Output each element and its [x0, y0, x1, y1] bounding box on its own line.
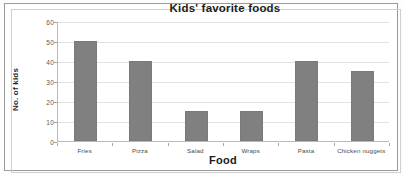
- x-axis-tick-mark: [389, 143, 390, 146]
- y-axis-tick-label: 50: [34, 39, 54, 46]
- bar-slot: [224, 22, 279, 141]
- x-axis-tick-mark: [112, 143, 113, 146]
- bar-fries: [74, 41, 97, 141]
- bar-slot: [58, 22, 113, 141]
- x-axis-tick-mark: [223, 143, 224, 146]
- x-axis-tick-mark: [57, 143, 58, 146]
- y-axis-title: No. of kids: [9, 52, 23, 126]
- plot-area: [57, 22, 389, 142]
- bar-pizza: [129, 61, 152, 141]
- x-axis-tick-mark: [334, 143, 335, 146]
- y-axis-tick-label: 40: [34, 59, 54, 66]
- bar-salad: [185, 111, 208, 141]
- x-axis-tick-mark: [278, 143, 279, 146]
- y-axis-tick-label: 20: [34, 99, 54, 106]
- chart-title: Kids' favorite foods: [60, 2, 390, 14]
- y-axis-tick-label: 30: [34, 79, 54, 86]
- x-axis-tick-mark: [168, 143, 169, 146]
- y-axis-tick-labels: 0102030405060: [30, 22, 54, 142]
- bar-slot: [113, 22, 168, 141]
- bar-chicken-nuggets: [351, 71, 374, 141]
- bar-slot: [279, 22, 334, 141]
- y-axis-tick-label: 10: [34, 119, 54, 126]
- y-axis-tick-label: 0: [34, 139, 54, 146]
- bar-pasta: [295, 61, 318, 141]
- bar-slot: [169, 22, 224, 141]
- bar-wraps: [240, 111, 263, 141]
- bar-chart-figure: Kids' favorite foods No. of kids 0102030…: [0, 0, 403, 176]
- y-axis-title-text: No. of kids: [12, 67, 21, 110]
- bar-slot: [335, 22, 390, 141]
- y-axis-tick-label: 60: [34, 19, 54, 26]
- x-axis-title: Food: [57, 154, 389, 166]
